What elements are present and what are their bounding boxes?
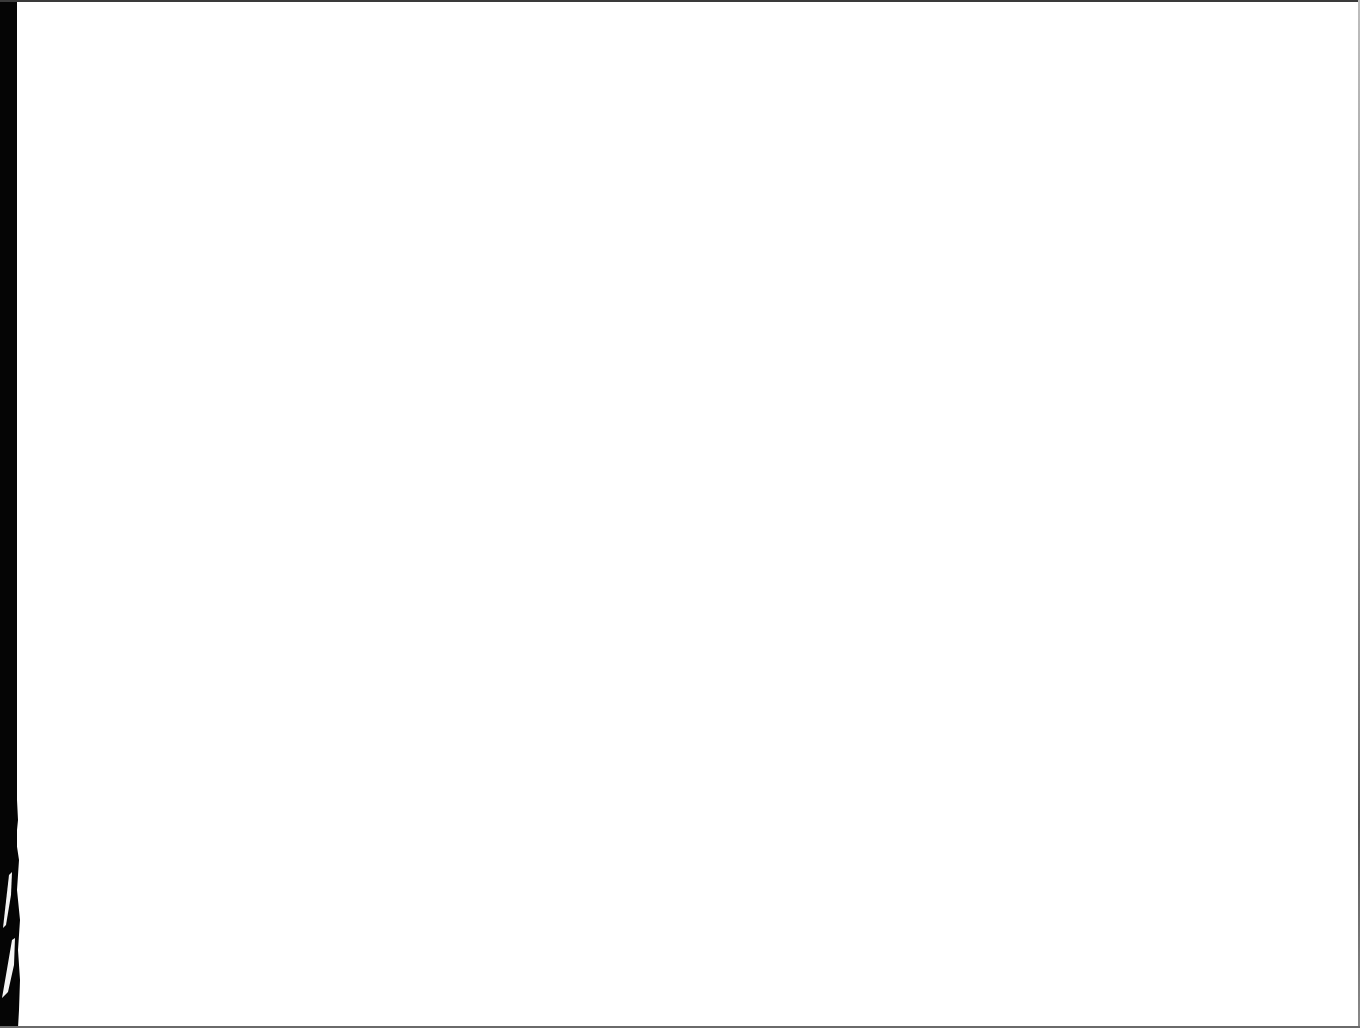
edge-streaks	[0, 800, 24, 1028]
blank-page-area	[17, 2, 1358, 1026]
top-scan-edge	[0, 0, 1360, 2]
scanned-page	[0, 0, 1360, 1028]
